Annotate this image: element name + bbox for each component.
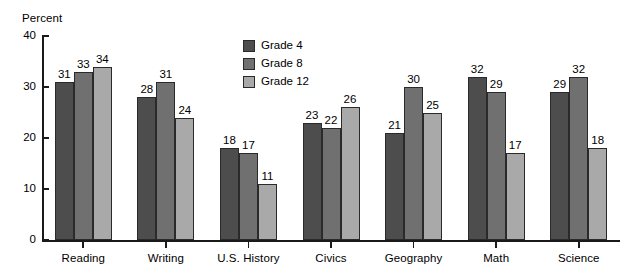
y-tick-label-40: 40 [0,30,36,42]
bar [220,148,239,240]
bar-value-label: 25 [426,100,439,112]
x-axis-label-reading: Reading [62,252,106,264]
bar-chart: Percent 403020100 3133342831241817112322… [0,0,623,276]
y-tick-label-30: 30 [0,81,36,93]
legend-label: Grade 12 [261,76,309,88]
bar [550,92,569,240]
legend-swatch-icon [243,58,255,70]
bar-value-label: 22 [325,115,338,127]
legend-item: Grade 8 [243,56,309,71]
bar [588,148,607,240]
x-axis-label-math: Math [483,252,509,264]
bar [74,72,93,240]
bar-value-label: 26 [344,94,357,106]
bar [404,87,423,240]
bar [93,67,112,240]
x-axis-label-u-s-history: U.S. History [217,252,280,264]
y-tick-label-10: 10 [0,183,36,195]
bar [258,184,277,240]
x-tick-1 [165,241,167,248]
bar [137,97,156,240]
bar [303,123,322,240]
bar-value-label: 31 [58,69,71,81]
x-tick-3 [330,241,332,248]
bar-value-label: 32 [471,64,484,76]
y-tick-label-0: 0 [0,234,36,246]
bar-value-label: 31 [159,69,172,81]
legend-item: Grade 4 [243,38,309,53]
bar-value-label: 33 [77,59,90,71]
x-tick-4 [413,241,415,248]
y-tick-label-20: 20 [0,132,36,144]
bar-value-label: 18 [223,135,236,147]
bar [569,77,588,240]
bar [506,153,525,240]
bar-value-label: 21 [388,120,401,132]
x-tick-2 [248,241,250,248]
bar [423,113,442,241]
bar [487,92,506,240]
x-tick-5 [495,241,497,248]
bar [385,133,404,240]
x-tick-0 [82,241,84,248]
bar-value-label: 30 [407,74,420,86]
x-axis-label-writing: Writing [148,252,184,264]
bar-value-label: 32 [572,64,585,76]
bar-value-label: 23 [306,110,319,122]
bar [175,118,194,240]
bar-value-label: 29 [553,79,566,91]
bar-value-label: 17 [509,140,522,152]
x-axis-label-geography: Geography [385,252,443,264]
bar [239,153,258,240]
legend-label: Grade 8 [261,58,303,70]
bar-value-label: 28 [140,84,153,96]
legend-label: Grade 4 [261,40,303,52]
x-axis-label-civics: Civics [315,252,346,264]
x-tick-6 [578,241,580,248]
bar [341,107,360,240]
bar-value-label: 17 [242,140,255,152]
legend-swatch-icon [243,76,255,88]
bar [156,82,175,240]
bar-value-label: 11 [261,171,273,183]
bar-value-label: 29 [490,79,503,91]
bar-value-label: 18 [591,135,604,147]
bar [468,77,487,240]
legend-swatch-icon [243,40,255,52]
bar-value-label: 24 [178,105,191,117]
bar [322,128,341,240]
y-axis-title: Percent [22,12,62,24]
legend-item: Grade 12 [243,74,309,89]
bar [55,82,74,240]
plot-area: 3133342831241817112322262130253229172932… [42,36,620,240]
x-axis-label-science: Science [558,252,600,264]
bar-value-label: 34 [96,54,109,66]
legend: Grade 4Grade 8Grade 12 [243,38,309,89]
